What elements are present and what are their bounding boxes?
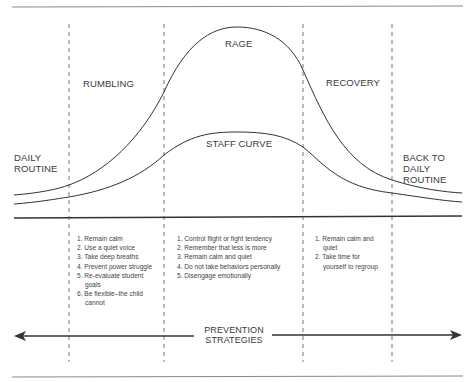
label-staff-curve: STAFF CURVE [206, 138, 272, 149]
bottom-rule [12, 376, 463, 377]
list-item: 4. Do not take behaviors personally [177, 262, 302, 271]
list-item: 1. Remain calm and quiet [315, 234, 381, 252]
label-rage: RAGE [225, 38, 252, 49]
list-item: 2. Remember that less is more [177, 243, 302, 252]
rage-strategies: 1. Control flight or fight tendency 2. R… [177, 234, 302, 280]
label-back-to-daily-routine: BACK TO DAILY ROUTINE [403, 152, 446, 185]
list-item: 2. Use a quiet voice [77, 243, 157, 252]
list-item: 5. Re-evaluate student goals [77, 271, 157, 289]
list-item: 1. Remain calm [77, 234, 157, 243]
list-item: 2. Take time for yourself to regroup [315, 252, 381, 270]
list-item: 5. Disengage emotionally [177, 271, 302, 280]
label-recovery: RECOVERY [326, 77, 380, 88]
rumbling-strategies: 1. Remain calm 2. Use a quiet voice 3. T… [77, 234, 157, 308]
list-item: 4. Prevent power struggle [77, 262, 157, 271]
list-item: 3. Remain calm and quiet [177, 252, 302, 261]
list-item: 1. Control flight or fight tendency [177, 234, 302, 243]
list-item: 6. Be flexible–the child cannot [77, 289, 157, 307]
list-item: 3. Take deep breaths [77, 252, 157, 261]
rage-curve [14, 27, 462, 195]
top-rule [12, 6, 463, 7]
recovery-strategies: 1. Remain calm and quiet 2. Take time fo… [315, 234, 381, 271]
label-daily-routine: DAILY ROUTINE [14, 152, 57, 174]
label-rumbling: RUMBLING [83, 78, 134, 89]
label-prevention-strategies: PREVENTION STRATEGIES [196, 325, 272, 345]
phase-dividers [69, 24, 392, 362]
baseline [14, 216, 462, 218]
